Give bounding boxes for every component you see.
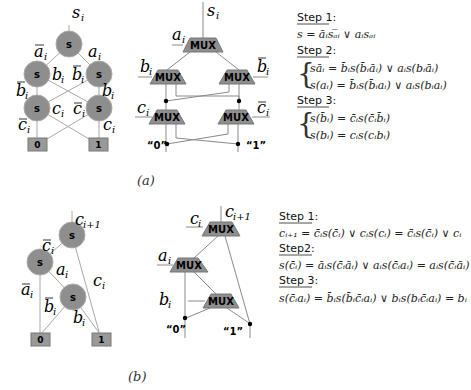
step3-equation: s(c̄ᵢaᵢ) = b̄ᵢs(b̄ᵢc̄ᵢaᵢ) ∨ bᵢs(bᵢc̄ᵢaᵢ)…	[279, 292, 467, 305]
label-b-bar-i: b i	[44, 297, 56, 317]
svg-text:i: i	[25, 90, 28, 101]
svg-text:i: i	[146, 107, 149, 118]
label-a-i: a i	[88, 42, 101, 62]
bdd-a: s s s s s 0 1 s i	[16, 3, 115, 151]
svg-text:s: s	[34, 69, 40, 80]
const-1-label: “1”	[246, 140, 266, 151]
step3-equation-1: s(b̄ᵢ) = c̄ᵢs(c̄ᵢb̄ᵢ)	[310, 112, 390, 125]
bdd-node: s	[24, 61, 50, 87]
bdd-b: s s s 0 1 c i+1 c i a i	[21, 210, 111, 346]
label-c-i-mid: c i	[52, 99, 64, 119]
step2-equation-1: sāᵢ = b̄ᵢs(b̄ᵢāᵢ) ∨ aᵢs(bᵢāᵢ)	[310, 62, 438, 75]
svg-text:i: i	[30, 289, 33, 300]
step1-heading: Step 1:	[279, 210, 318, 223]
mux-block-a: MUX	[170, 258, 208, 272]
svg-text:i: i	[27, 124, 30, 135]
step2-heading: Step 2:	[297, 44, 336, 57]
junction-dot	[248, 322, 252, 326]
svg-text:i: i	[182, 34, 185, 45]
svg-text:c: c	[103, 115, 112, 134]
label-c-i-plus-1: c i+1	[75, 210, 101, 230]
svg-text:s: s	[72, 3, 80, 22]
step1-heading: Step 1:	[297, 11, 336, 24]
svg-text:s: s	[37, 257, 43, 268]
caption-b: (b)	[128, 369, 146, 384]
svg-text:a: a	[88, 42, 98, 61]
svg-text:MUX: MUX	[223, 112, 249, 123]
mux-block-c: MUX	[202, 222, 240, 236]
svg-text:i: i	[82, 317, 85, 328]
svg-text:MUX: MUX	[208, 296, 234, 307]
step1-equation: s = āᵢsₐ̅ᵢ ∨ aᵢsₐᵢ	[297, 28, 375, 41]
svg-text:i: i	[61, 74, 64, 85]
svg-text:c: c	[18, 115, 27, 134]
svg-text:0: 0	[34, 140, 40, 150]
bdd-node: s	[56, 31, 82, 57]
svg-text:MUX: MUX	[190, 40, 216, 51]
label-c-i: c i	[190, 209, 201, 229]
svg-text:i: i	[44, 51, 47, 62]
step3-heading: Step 3:	[279, 274, 318, 287]
terminal-0: 0	[28, 138, 47, 151]
svg-text:i: i	[81, 12, 84, 23]
svg-text:i: i	[51, 245, 54, 256]
label-c-bar-i: c i	[42, 236, 54, 256]
svg-text:i: i	[198, 218, 201, 229]
junction-dot	[164, 99, 168, 103]
step3-heading: Step 3:	[297, 94, 336, 107]
equations-b: Step 1: cᵢ₊₁ = c̄ᵢs(c̄ᵢ) ∨ cᵢs(cᵢ) = c̄ᵢ…	[279, 210, 470, 305]
step2-equation-2: s(aᵢ) = b̄ᵢs(b̄ᵢaᵢ) ∨ aᵢs(bᵢaᵢ)	[310, 79, 447, 92]
const-0-label: “0”	[147, 140, 167, 151]
svg-text:a: a	[172, 25, 182, 44]
svg-text:i: i	[81, 74, 84, 85]
const-0-label: “0”	[166, 324, 186, 335]
junction-dot	[237, 99, 241, 103]
svg-text:c: c	[42, 236, 51, 255]
svg-text:i: i	[266, 66, 269, 77]
svg-text:i: i	[266, 107, 269, 118]
svg-text:i: i	[168, 299, 171, 310]
svg-text:MUX: MUX	[154, 112, 180, 123]
mux-block-b: MUX	[203, 294, 239, 308]
svg-text:a: a	[158, 246, 168, 265]
svg-text:i: i	[98, 51, 101, 62]
svg-text:i: i	[53, 306, 56, 317]
label-c-i: c i	[93, 271, 105, 291]
svg-text:MUX: MUX	[208, 224, 234, 235]
label-b-bar-i-right: b i	[72, 65, 84, 85]
label-b-i-left: b i	[52, 65, 64, 85]
label-b-i-right: b i	[102, 81, 114, 101]
svg-text:s: s	[70, 292, 76, 303]
svg-text:s: s	[34, 103, 40, 114]
label-a-bar-i: a i	[34, 42, 47, 62]
mux-network-a: MUX MUX MUX MUX MUX s i a i b i	[135, 1, 270, 152]
equations-a: Step 1: s = āᵢsₐ̅ᵢ ∨ aᵢsₐᵢ Step 2: { sāᵢ…	[297, 11, 447, 142]
svg-text:i: i	[216, 10, 219, 21]
mux-block-b-bar: MUX	[219, 70, 255, 84]
svg-text:i: i	[111, 90, 114, 101]
mux-block-c: MUX	[149, 110, 185, 124]
svg-text:0: 0	[37, 335, 43, 345]
svg-text:i: i	[112, 124, 115, 135]
step2-heading: Step2:	[279, 242, 315, 255]
svg-text:c: c	[137, 98, 146, 117]
junction-dot	[236, 142, 240, 146]
label-c-bar-i: c i	[257, 98, 269, 118]
svg-text:i+1: i+1	[83, 219, 101, 230]
label-c-i-plus-1: c i+1	[225, 202, 251, 222]
label-b-bar-i-left: b i	[16, 81, 28, 101]
svg-text:i: i	[65, 269, 68, 280]
terminal-1: 1	[89, 138, 108, 151]
svg-text:c: c	[93, 271, 102, 290]
label-c-i-right: c i	[103, 115, 115, 135]
svg-text:i+1: i+1	[233, 211, 251, 222]
caption-a: (a)	[137, 173, 155, 188]
svg-text:c: c	[73, 99, 82, 118]
mux-block-a: MUX	[183, 38, 223, 52]
label-s-i: s i	[72, 3, 84, 23]
label-b-i: b i	[159, 290, 171, 310]
step3-equation-2: s(bᵢ) = cᵢs(cᵢbᵢ)	[310, 129, 390, 142]
svg-text:i: i	[168, 255, 171, 266]
svg-text:s: s	[96, 69, 102, 80]
svg-text:1: 1	[95, 140, 101, 150]
